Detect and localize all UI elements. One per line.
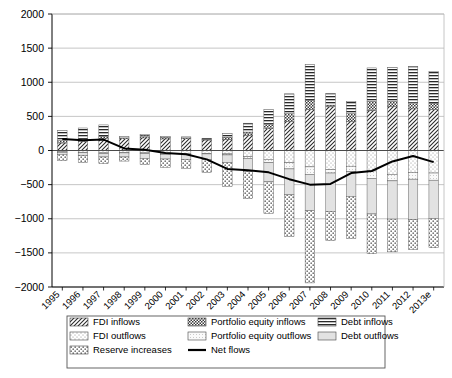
bar-segment <box>264 124 274 129</box>
bar-segment <box>78 153 88 156</box>
x-tick-label: 2001 <box>163 289 186 312</box>
x-axis-tick-labels: 1995199619971998199920002001200220032004… <box>39 287 434 315</box>
svg-text:−2000: −2000 <box>15 281 45 293</box>
bar-segment <box>243 157 253 159</box>
bar-segment <box>161 137 171 138</box>
bar-segment <box>223 137 233 139</box>
x-tick-label: 2005 <box>245 289 268 312</box>
bar-segment <box>264 182 274 213</box>
bar-segment <box>305 211 315 283</box>
bar-segment <box>223 151 233 154</box>
bar-segment <box>346 166 356 171</box>
bar-segment <box>305 100 315 110</box>
bar-segment <box>285 163 295 169</box>
bar-segment <box>388 106 398 150</box>
bar-segment <box>346 121 356 150</box>
bar-segment <box>408 151 418 173</box>
bar-segment <box>367 110 377 150</box>
bar-segment <box>388 181 398 219</box>
bar-segment <box>140 135 150 138</box>
bar-segment <box>264 110 274 124</box>
x-tick-label: 2000 <box>142 289 165 312</box>
bar-segment <box>429 72 439 103</box>
bar-segment <box>264 159 274 162</box>
chart-legend: FDI inflowsFDI outflowsReserve increases… <box>67 316 399 368</box>
svg-text:−1000: −1000 <box>15 212 45 224</box>
bar-segment <box>223 162 233 186</box>
bar-segment <box>285 195 295 237</box>
bar-segment <box>429 180 439 218</box>
bar-segment <box>264 129 274 151</box>
bar-segment <box>285 151 295 163</box>
x-tick-label: 2013e <box>407 289 433 315</box>
bar-segment <box>305 110 315 151</box>
x-tick-label: 2004 <box>225 289 248 312</box>
bar-segment <box>429 103 439 109</box>
bar-segment <box>202 138 212 139</box>
bar-segment <box>243 132 253 135</box>
bar-segment <box>408 103 418 109</box>
legend-swatch <box>70 332 88 340</box>
bar-segment <box>326 170 336 173</box>
bar-segment <box>99 157 109 163</box>
legend-swatch <box>318 332 336 340</box>
bar-segment <box>305 65 315 100</box>
bar-segment <box>119 157 128 161</box>
bar-segment <box>285 121 295 150</box>
bar-segment <box>181 139 191 151</box>
y-axis-tick-labels: 2000150010005000−500−1000−1500−2000 <box>15 8 53 293</box>
x-tick-label: 1996 <box>60 289 83 312</box>
legend-label: Portfolio equity outflows <box>211 330 312 341</box>
bar-segment <box>119 153 128 157</box>
bar-segment <box>326 173 336 211</box>
bar-segment <box>326 211 336 240</box>
legend-swatch <box>70 318 88 326</box>
svg-text:2000: 2000 <box>21 8 45 20</box>
legend-swatch <box>70 346 88 354</box>
bar-segment <box>140 134 150 135</box>
bar-segment <box>140 154 150 159</box>
bar-segment <box>243 123 253 132</box>
bar-segment <box>99 125 109 137</box>
bar-segment <box>346 101 356 113</box>
bar-segment <box>58 141 68 143</box>
x-tick-label: 1998 <box>101 289 124 312</box>
bar-segment <box>346 151 356 167</box>
bar-segment <box>223 133 233 137</box>
bar-segment <box>305 167 315 175</box>
bar-segment <box>429 218 439 247</box>
legend-label: Net flows <box>211 344 250 355</box>
bar-segment <box>243 171 253 198</box>
bar-segment <box>367 178 377 213</box>
legend-swatch <box>318 318 336 326</box>
bar-segment <box>388 219 398 252</box>
bar-segment <box>202 140 212 151</box>
legend-swatch <box>188 318 206 326</box>
legend-label: Debt inflows <box>341 316 393 327</box>
bar-segment <box>78 141 88 150</box>
bar-segment <box>408 179 418 219</box>
x-tick-label: 1997 <box>80 289 103 312</box>
bar-segment <box>78 155 88 162</box>
legend-label: FDI inflows <box>93 316 140 327</box>
x-tick-label: 2011 <box>370 289 392 311</box>
chart-canvas: 2000150010005000−500−1000−1500−2000 1995… <box>0 0 452 378</box>
bar-segment <box>140 158 150 164</box>
bar-segment <box>388 174 398 180</box>
bar-segment <box>326 107 336 151</box>
bar-segment <box>408 219 418 249</box>
x-tick-label: 2009 <box>328 289 351 312</box>
legend-label: Debt outflows <box>341 330 399 341</box>
bar-segment <box>367 68 377 101</box>
bar-segment <box>429 110 439 151</box>
bar-segment <box>223 139 233 150</box>
bar-segment <box>285 94 295 114</box>
bar-segment <box>326 151 336 170</box>
bar-segment <box>264 151 274 160</box>
bar-segment <box>305 174 315 210</box>
bar-segment <box>326 105 336 107</box>
bar-segment <box>181 137 191 138</box>
bar-segment <box>58 143 68 151</box>
bar-segment <box>223 155 233 163</box>
svg-text:1000: 1000 <box>21 76 45 88</box>
